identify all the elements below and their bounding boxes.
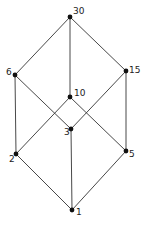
node-label-10: 10 [74, 89, 85, 98]
edge-30-6 [15, 17, 70, 75]
edge-30-15 [70, 17, 126, 71]
node-label-6: 6 [6, 68, 12, 77]
node-label-30: 30 [73, 7, 84, 16]
edge-3-1 [71, 129, 72, 210]
edge-10-5 [70, 97, 126, 151]
node-30 [68, 15, 73, 20]
node-label-1: 1 [76, 208, 82, 217]
node-label-2: 2 [9, 155, 15, 164]
edge-10-2 [16, 97, 70, 154]
edge-5-1 [72, 151, 126, 210]
node-label-3: 3 [64, 128, 70, 137]
node-label-15: 15 [129, 66, 140, 75]
node-10 [68, 95, 73, 100]
node-15 [124, 69, 129, 74]
node-1 [70, 208, 75, 213]
hasse-diagram [0, 0, 144, 225]
node-5 [124, 149, 129, 154]
edge-15-3 [71, 71, 126, 129]
edge-6-3 [15, 75, 71, 129]
node-label-5: 5 [129, 150, 135, 159]
edge-6-2 [15, 75, 16, 154]
node-6 [13, 73, 18, 78]
edge-2-1 [16, 154, 72, 210]
